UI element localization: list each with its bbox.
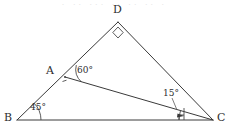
- vertex-label-a: A: [46, 65, 54, 76]
- angle-label-c: 15°: [163, 89, 179, 98]
- segment-dc: [118, 22, 213, 120]
- segment-ac: [65, 77, 213, 120]
- vertex-label-b: B: [4, 112, 12, 123]
- angle-label-a: 60°: [77, 66, 93, 75]
- geometry-figure: · ·· ··· ·· ·· ·· · B D C A 45° 60°: [0, 0, 229, 134]
- point-marker-a: [64, 76, 66, 78]
- figure-canvas: [0, 0, 229, 134]
- vertex-label-c: C: [217, 112, 225, 123]
- tick-marker-a: [63, 80, 67, 81]
- arrow-head-angle-c: [177, 114, 184, 118]
- right-angle-marker-d: [113, 27, 123, 38]
- angle-label-b: 45°: [30, 103, 46, 112]
- vertex-label-d: D: [113, 4, 122, 15]
